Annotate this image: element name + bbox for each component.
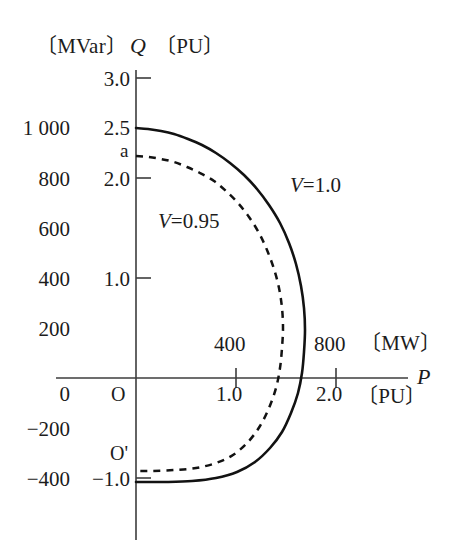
p-tick-label-2-0: 2.0 <box>316 384 342 405</box>
mw-tick-label-400: 400 <box>214 334 246 355</box>
mvar-tick-label-600: 600 <box>0 219 70 240</box>
mw-tick-label-800: 800 <box>314 334 346 355</box>
mvar-tick-label-200: 200 <box>0 319 70 340</box>
q-tick-label-2-0: 2.0 <box>78 169 130 190</box>
y-axis-unit-pu: 〔PU〕 <box>155 36 225 57</box>
series-v-0-95-value: =0.95 <box>171 209 220 233</box>
curve-v-1-0 <box>136 128 305 482</box>
series-label-v-1-0: V=1.0 <box>290 175 341 196</box>
mvar-tick-label-minus-200: −200 <box>0 419 70 440</box>
series-v-1-0-value: =1.0 <box>303 173 341 197</box>
mvar-tick-label-minus-400: −400 <box>0 469 70 490</box>
q-tick-label-3-0: 3.0 <box>78 69 130 90</box>
q-tick-label-1-0: 1.0 <box>78 269 130 290</box>
mvar-tick-label-1000: 1 000 <box>0 118 70 139</box>
series-v-0-95-symbol: V <box>158 209 171 233</box>
x-axis-unit-mw: 〔MW〕 <box>360 333 441 354</box>
y-axis-symbol: Q <box>130 35 146 57</box>
p-tick-label-1-0: 1.0 <box>216 384 242 405</box>
series-label-v-0-95: V=0.95 <box>158 211 219 232</box>
y-axis-unit-mvar: 〔MVar〕 <box>36 36 127 57</box>
x-axis-unit-pu: 〔PU〕 <box>357 386 427 407</box>
q-tick-label-minus-1-0: −1.0 <box>74 469 130 490</box>
q-tick-label-2-5: 2.5 <box>78 118 130 139</box>
origin-label-O: O <box>111 384 125 404</box>
mvar-tick-label-0: 0 <box>0 384 70 405</box>
mvar-tick-label-400: 400 <box>0 269 70 290</box>
mvar-tick-label-800: 800 <box>0 169 70 190</box>
origin-label-O-prime: O' <box>110 443 128 463</box>
curve-v-0-95 <box>136 156 283 471</box>
chart-page: 〔MVar〕 Q 〔PU〕 3.0 2.5 2.0 1.0 −1.0 1 000… <box>0 0 460 557</box>
series-v-1-0-symbol: V <box>290 173 303 197</box>
annotation-point-a: a <box>120 141 128 160</box>
